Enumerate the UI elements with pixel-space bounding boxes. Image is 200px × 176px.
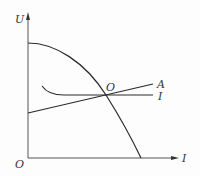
y-axis-arrow-icon [26, 12, 30, 20]
y-axis-label: U [15, 13, 25, 26]
diagram-svg: U I O O A I [0, 0, 200, 176]
origin-label: O [15, 158, 24, 171]
diagram-canvas: U I O O A I [0, 0, 200, 176]
line-a [28, 84, 153, 113]
x-axis-label: I [181, 152, 187, 165]
intersection-label: O [106, 81, 115, 94]
curve-i-label: I [157, 90, 163, 103]
x-axis-arrow-icon [171, 156, 179, 160]
